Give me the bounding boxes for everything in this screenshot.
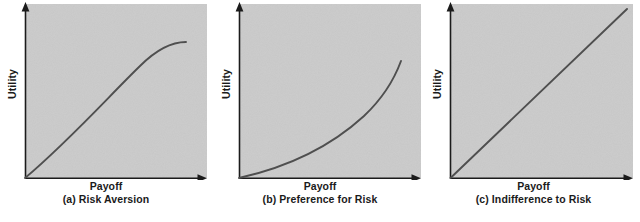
panel-risk-aversion: Utility Payoff (a) Risk Aversion [0, 0, 212, 222]
plot-area-a [0, 0, 212, 180]
x-axis-label-a: Payoff [0, 180, 212, 193]
y-axis-label-c: Utility [431, 61, 443, 107]
panel-caption-a: (a) Risk Aversion [0, 193, 212, 206]
plot-texture-b [239, 4, 421, 178]
panel-caption-c: (c) Indifference to Risk [427, 193, 640, 206]
y-axis-label-b: Utility [220, 61, 232, 107]
y-axis-label-a: Utility [6, 61, 18, 107]
panel-preference-for-risk: Utility Payoff (b) Preference for Risk [214, 0, 426, 222]
plot-area-b [214, 0, 426, 180]
caption-block-c: Payoff (c) Indifference to Risk [427, 180, 640, 206]
utility-curves-figure: Utility Payoff (a) Risk Aversion [0, 0, 640, 222]
panel-indifference-to-risk: Utility Payoff (c) Indifference to Risk [427, 0, 640, 222]
caption-block-b: Payoff (b) Preference for Risk [214, 180, 426, 206]
plot-area-c [427, 0, 640, 180]
panel-caption-b: (b) Preference for Risk [214, 193, 426, 206]
x-axis-label-c: Payoff [427, 180, 640, 193]
caption-block-a: Payoff (a) Risk Aversion [0, 180, 212, 206]
x-axis-label-b: Payoff [214, 180, 426, 193]
